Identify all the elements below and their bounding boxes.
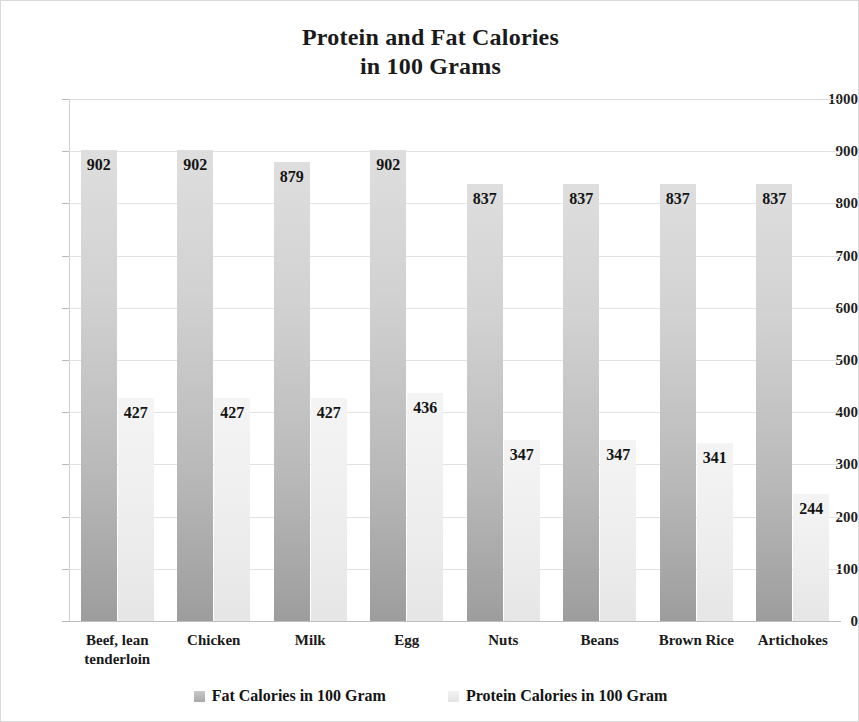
bar-group: 837341 bbox=[660, 99, 733, 621]
x-axis-category-label-line: Brown Rice bbox=[648, 631, 745, 650]
bar-fat[interactable]: 837 bbox=[660, 184, 696, 621]
bar-value-label: 837 bbox=[473, 190, 497, 208]
legend-item[interactable]: Protein Calories in 100 Gram bbox=[448, 687, 667, 705]
bar-value-label: 427 bbox=[220, 404, 244, 422]
y-axis-tick-mark-700 bbox=[62, 256, 69, 257]
chart-title-line-2: in 100 Grams bbox=[1, 52, 859, 81]
bar-group: 837347 bbox=[563, 99, 636, 621]
x-axis-category-label: Egg bbox=[359, 631, 456, 650]
chart-legend: Fat Calories in 100 GramProtein Calories… bbox=[1, 687, 859, 705]
bar-protein[interactable]: 436 bbox=[407, 393, 443, 621]
y-axis-tick-mark-600 bbox=[62, 308, 69, 309]
chart-title-line-1: Protein and Fat Calories bbox=[302, 24, 559, 50]
bar-group: 837347 bbox=[467, 99, 540, 621]
y-axis-tick-mark-500 bbox=[62, 360, 69, 361]
bar-fat[interactable]: 837 bbox=[756, 184, 792, 621]
y-axis-tick-mark-900 bbox=[62, 151, 69, 152]
chart-page: Protein and Fat Calories in 100 Grams 10… bbox=[0, 0, 859, 722]
y-axis-tick-mark-100 bbox=[62, 569, 69, 570]
bar-value-label: 837 bbox=[762, 190, 786, 208]
y-axis-tick-mark-0 bbox=[62, 621, 69, 622]
legend-label: Fat Calories in 100 Gram bbox=[212, 687, 386, 705]
gridline-0 bbox=[69, 621, 841, 622]
bar-value-label: 347 bbox=[510, 446, 534, 464]
y-axis-tick-mark-800 bbox=[62, 203, 69, 204]
bar-protein[interactable]: 427 bbox=[118, 398, 154, 621]
bar-fat[interactable]: 902 bbox=[81, 150, 117, 621]
bar-fat[interactable]: 837 bbox=[467, 184, 503, 621]
bar-protein[interactable]: 427 bbox=[214, 398, 250, 621]
x-axis-category-label: Beef, leantenderloin bbox=[69, 631, 166, 669]
bar-value-label: 341 bbox=[703, 449, 727, 467]
bar-value-label: 436 bbox=[413, 399, 437, 417]
bar-value-label: 837 bbox=[569, 190, 593, 208]
bar-group: 837244 bbox=[756, 99, 829, 621]
bar-group: 902427 bbox=[81, 99, 154, 621]
y-axis-tick-mark-400 bbox=[62, 412, 69, 413]
bar-value-label: 347 bbox=[606, 446, 630, 464]
bar-protein[interactable]: 244 bbox=[793, 494, 829, 621]
bar-value-label: 902 bbox=[87, 156, 111, 174]
x-axis-category-label: Milk bbox=[262, 631, 359, 650]
bar-value-label: 427 bbox=[124, 404, 148, 422]
bar-value-label: 902 bbox=[376, 156, 400, 174]
x-axis-category-label: Beans bbox=[552, 631, 649, 650]
bar-fat[interactable]: 837 bbox=[563, 184, 599, 621]
bar-fat[interactable]: 879 bbox=[274, 162, 310, 621]
bar-value-label: 244 bbox=[799, 500, 823, 518]
bar-group: 879427 bbox=[274, 99, 347, 621]
x-axis-category-label-line: Milk bbox=[262, 631, 359, 650]
x-axis-category-label: Chicken bbox=[166, 631, 263, 650]
y-axis-tick-mark-200 bbox=[62, 517, 69, 518]
y-axis-tick-mark-300 bbox=[62, 464, 69, 465]
x-axis-category-label-line: Nuts bbox=[455, 631, 552, 650]
y-axis-tick-mark-1000 bbox=[62, 99, 69, 100]
x-axis-category-label-line: Beans bbox=[552, 631, 649, 650]
bar-protein[interactable]: 427 bbox=[311, 398, 347, 621]
legend-swatch-fat bbox=[194, 691, 205, 702]
legend-item[interactable]: Fat Calories in 100 Gram bbox=[194, 687, 386, 705]
x-axis-category-label-line: Beef, lean bbox=[69, 631, 166, 650]
x-axis-category-label: Artichokes bbox=[745, 631, 842, 650]
bar-group: 902436 bbox=[370, 99, 443, 621]
x-axis-category-label-line: Egg bbox=[359, 631, 456, 650]
bar-value-label: 879 bbox=[280, 168, 304, 186]
bar-fat[interactable]: 902 bbox=[177, 150, 213, 621]
legend-swatch-protein bbox=[448, 691, 459, 702]
bar-protein[interactable]: 347 bbox=[504, 440, 540, 621]
bar-fat[interactable]: 902 bbox=[370, 150, 406, 621]
bar-value-label: 427 bbox=[317, 404, 341, 422]
bar-protein[interactable]: 341 bbox=[697, 443, 733, 621]
bar-group: 902427 bbox=[177, 99, 250, 621]
legend-label: Protein Calories in 100 Gram bbox=[466, 687, 667, 705]
plot-area: 9024279024278794279024368373478373478373… bbox=[69, 99, 841, 621]
bar-value-label: 902 bbox=[183, 156, 207, 174]
bar-protein[interactable]: 347 bbox=[600, 440, 636, 621]
x-axis-category-label-line: Chicken bbox=[166, 631, 263, 650]
x-axis-category-label-line: Artichokes bbox=[745, 631, 842, 650]
x-axis-category-label: Brown Rice bbox=[648, 631, 745, 650]
bar-value-label: 837 bbox=[666, 190, 690, 208]
x-axis-category-label: Nuts bbox=[455, 631, 552, 650]
x-axis-category-label-line: tenderloin bbox=[69, 650, 166, 669]
chart-title: Protein and Fat Calories in 100 Grams bbox=[1, 23, 859, 81]
